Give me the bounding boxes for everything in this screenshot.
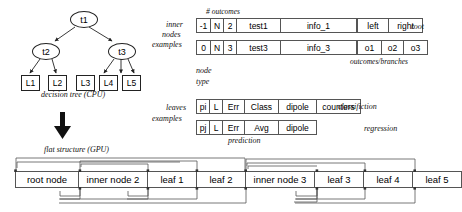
flat-cell-inner-node-3: inner node 3 (246, 171, 315, 188)
cell-leaf-id: pi (196, 99, 210, 114)
leaves-examples-label: examples (152, 114, 182, 124)
cell-avg: Avg (245, 120, 279, 135)
cell-error: Err (223, 120, 245, 135)
cell-leaf-type: L (210, 120, 223, 135)
record-row-inner-example: 0 N 3 test3 info_3 o1 o2 o3 (196, 40, 428, 55)
node-type-label-line1: node (196, 66, 212, 76)
flat-structure-caption: flat structure (GPU) (44, 145, 109, 155)
cell-branch-o3: o3 (404, 40, 428, 55)
tree-node-t2: t2 (32, 43, 60, 60)
cell-num-outcomes: 2 (224, 18, 237, 33)
tree-leaf-l4-label: L4 (104, 78, 113, 88)
root-annotation: root (411, 22, 424, 32)
record-row-leaf-classification: pi L Err Class dipole counters (196, 99, 361, 114)
tree-leaf-l5: L5 (122, 75, 141, 91)
cell-branch-o2: o2 (382, 40, 404, 55)
tree-node-t3: t3 (108, 43, 136, 60)
cell-leaf-id: pj (196, 120, 210, 135)
cell-info: info_3 (281, 40, 357, 55)
flat-cell-leaf-1: leaf 1 (148, 171, 197, 188)
flat-structure-row: root node inner node 2 leaf 1 leaf 2 inn… (15, 171, 462, 188)
cell-test: test1 (237, 18, 281, 33)
cell-error: Err (223, 99, 245, 114)
cell-node-type: N (211, 40, 224, 55)
flat-cell-leaf-4: leaf 4 (364, 171, 413, 188)
cell-node-id: 0 (196, 40, 211, 55)
flat-cell-leaf-3: leaf 3 (315, 171, 364, 188)
inner-nodes-label-line1: inner (166, 20, 183, 30)
regression-annotation: regression (364, 124, 397, 134)
tree-leaf-l1: L1 (21, 75, 40, 91)
cell-num-outcomes: 3 (224, 40, 237, 55)
cell-test: test3 (237, 40, 281, 55)
cell-dipole: dipole (279, 99, 317, 114)
prediction-label: prediction (228, 136, 261, 146)
flat-cell-leaf-2: leaf 2 (197, 171, 246, 188)
cell-node-type: N (211, 18, 224, 33)
inner-nodes-label-line2: nodes (162, 30, 181, 40)
cell-leaf-type: L (210, 99, 223, 114)
outcomes-header-label: # outcomes (206, 7, 240, 17)
tree-leaf-l5-label: L5 (127, 78, 136, 88)
cell-branch-left: left (357, 18, 389, 33)
record-row-inner-template: -1 N 2 test1 info_1 left right (196, 18, 423, 33)
cell-class: Class (245, 99, 279, 114)
tree-leaf-l1-label: L1 (26, 78, 35, 88)
decision-tree-caption: decision tree (CPU) (41, 90, 105, 100)
outcomes-branches-label: outcomes/branches (350, 57, 408, 67)
cell-info: info_1 (281, 18, 357, 33)
cell-dipole: dipole (279, 120, 317, 135)
flat-cell-root-node: root node (15, 171, 79, 188)
cell-branch-o1: o1 (357, 40, 382, 55)
tree-leaf-l4: L4 (99, 75, 118, 91)
leaves-label: leaves (166, 103, 186, 113)
tree-node-t3-label: t3 (118, 47, 126, 57)
tree-node-root-label: t1 (80, 15, 88, 25)
tree-leaf-l2-label: L2 (53, 78, 62, 88)
flat-cell-leaf-5: leaf 5 (413, 171, 462, 188)
node-type-label-line2: type (196, 77, 209, 87)
record-row-leaf-regression: pj L Err Avg dipole (196, 120, 317, 135)
classification-annotation: classifiction (338, 102, 377, 112)
tree-node-t2-label: t2 (42, 47, 50, 57)
cell-node-id: -1 (196, 18, 211, 33)
tree-leaf-l3-label: L3 (81, 78, 90, 88)
inner-examples-label: examples (152, 40, 182, 50)
flat-cell-inner-node-2: inner node 2 (79, 171, 148, 188)
tree-leaf-l3: L3 (76, 75, 95, 91)
tree-leaf-l2: L2 (48, 75, 67, 91)
tree-node-root: t1 (70, 11, 98, 28)
